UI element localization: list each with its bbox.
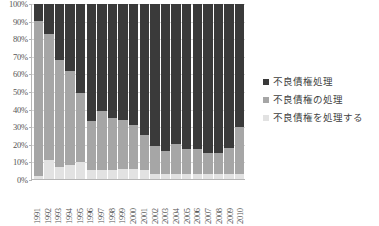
bar-segment[interactable] [108,4,117,118]
bar-segment[interactable] [203,153,212,174]
bar-segment[interactable] [108,170,117,179]
bar-segment[interactable] [235,127,244,174]
bar-segment[interactable] [203,174,212,179]
bar-segment[interactable] [214,4,223,153]
bar-segment[interactable] [55,4,64,60]
legend-item[interactable]: 不良債権を処理する [263,112,379,124]
x-tick: 2001 [139,182,150,224]
bar-segment[interactable] [97,4,106,111]
chart-legend: 不良債権処理不良債権の処理不良債権を処理する [263,76,379,130]
bar-segment[interactable] [118,169,127,179]
x-tick-label: 2001 [140,182,149,224]
bar-segment[interactable] [150,4,159,146]
bar-segment[interactable] [76,4,85,93]
bar-segment[interactable] [203,4,212,153]
bar-column[interactable] [87,4,96,179]
bar-segment[interactable] [34,21,43,175]
bar-segment[interactable] [193,149,202,173]
bar-segment[interactable] [129,125,138,169]
bar-segment[interactable] [44,34,53,160]
bar-segment[interactable] [108,118,117,171]
plot-area [31,4,245,180]
bar-segment[interactable] [214,153,223,174]
bar-column[interactable] [224,4,233,179]
bar-segment[interactable] [182,4,191,149]
bar-column[interactable] [161,4,170,179]
bar-segment[interactable] [224,4,233,148]
bar-segment[interactable] [161,151,170,174]
bar-segment[interactable] [182,149,191,173]
bar-column[interactable] [34,4,43,179]
bar-column[interactable] [97,4,106,179]
x-tick: 1993 [53,182,64,224]
bar-segment[interactable] [97,170,106,179]
bar-segment[interactable] [118,120,127,169]
x-tick-label: 1998 [108,182,117,224]
legend-item[interactable]: 不良債権処理 [263,76,379,88]
bar-column[interactable] [129,4,138,179]
bar-column[interactable] [171,4,180,179]
bar-segment[interactable] [224,148,233,174]
bar-segment[interactable] [171,4,180,144]
y-tick-mark [29,180,32,181]
bar-column[interactable] [65,4,74,179]
bar-segment[interactable] [55,167,64,179]
bar-column[interactable] [235,4,244,179]
bar-segment[interactable] [161,4,170,151]
bar-column[interactable] [214,4,223,179]
x-tick-label: 1991 [33,182,42,224]
bar-segment[interactable] [235,174,244,179]
bar-segment[interactable] [140,170,149,179]
y-tick-label: 10% [13,158,28,167]
bar-column[interactable] [118,4,127,179]
bar-segment[interactable] [76,162,85,180]
bar-segment[interactable] [182,174,191,179]
bar-segment[interactable] [44,160,53,179]
y-tick-mark [29,57,32,58]
x-tick: 1994 [64,182,75,224]
bar-segment[interactable] [129,169,138,179]
bar-segment[interactable] [118,4,127,120]
bar-segment[interactable] [235,4,244,127]
bar-segment[interactable] [129,4,138,125]
legend-swatch-icon [263,115,269,121]
bar-segment[interactable] [65,165,74,179]
bar-segment[interactable] [55,60,64,167]
bar-segment[interactable] [171,144,180,174]
bar-segment[interactable] [140,4,149,135]
x-tick-label: 2000 [129,182,138,224]
bar-segment[interactable] [193,174,202,179]
bar-column[interactable] [76,4,85,179]
bar-segment[interactable] [193,4,202,149]
x-tick: 1991 [32,182,43,224]
bar-column[interactable] [140,4,149,179]
bar-column[interactable] [203,4,212,179]
bar-segment[interactable] [87,170,96,179]
bar-column[interactable] [108,4,117,179]
bar-segment[interactable] [44,4,53,34]
y-tick-label: 100% [9,0,28,8]
bar-segment[interactable] [150,174,159,179]
bar-segment[interactable] [224,174,233,179]
x-tick: 2007 [203,182,214,224]
bar-segment[interactable] [140,135,149,170]
bar-column[interactable] [182,4,191,179]
bar-segment[interactable] [150,146,159,174]
bar-segment[interactable] [171,174,180,179]
bar-column[interactable] [44,4,53,179]
bar-segment[interactable] [87,4,96,121]
bar-segment[interactable] [87,121,96,170]
legend-item[interactable]: 不良債権の処理 [263,94,379,106]
bar-column[interactable] [55,4,64,179]
bar-segment[interactable] [65,4,74,71]
bar-segment[interactable] [214,174,223,179]
bar-segment[interactable] [34,4,43,22]
bar-segment[interactable] [34,176,43,180]
x-tick: 1997 [96,182,107,224]
bar-column[interactable] [193,4,202,179]
bar-segment[interactable] [161,174,170,179]
bar-segment[interactable] [65,71,74,166]
bar-segment[interactable] [76,93,85,161]
bar-column[interactable] [150,4,159,179]
bar-segment[interactable] [97,111,106,171]
